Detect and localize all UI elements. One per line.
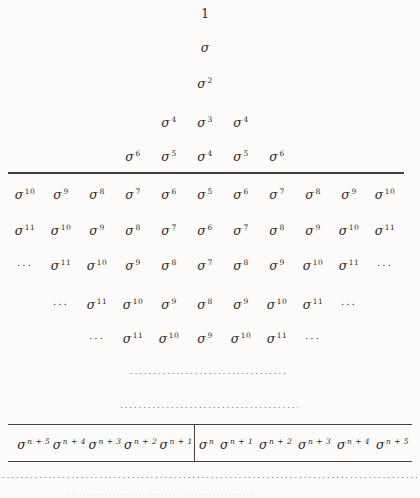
empty-cell: [7, 292, 43, 315]
exponent: 9: [243, 297, 248, 306]
exponent: 8: [99, 187, 104, 196]
sigma-glyph: σ: [197, 115, 206, 130]
sigma-term: σ9: [259, 253, 295, 276]
exponent: 10: [313, 258, 324, 267]
sigma-term: σ10: [295, 253, 331, 276]
exponent: 9: [351, 187, 356, 196]
sigma-term: σ10: [79, 253, 115, 276]
sigma-term: σ10: [115, 292, 151, 315]
exponent: 6: [135, 149, 140, 158]
exponent: n + 2: [134, 437, 157, 446]
ellipsis: ...: [331, 292, 367, 315]
sigma-glyph: σ: [376, 437, 385, 452]
empty-cell: [367, 144, 403, 167]
sigma-glyph: σ: [337, 437, 346, 452]
exponent: 10: [241, 331, 252, 340]
empty-cell: [151, 71, 187, 94]
sigma-glyph: σ: [197, 258, 206, 273]
exponent: 6: [207, 223, 212, 232]
dotted-continuation-line-2: ........................................…: [120, 400, 298, 412]
exponent: 11: [313, 297, 324, 306]
sigma-term: σn + 5: [376, 434, 409, 453]
empty-cell: [331, 3, 367, 24]
empty-cell: [79, 71, 115, 94]
sigma-glyph: σ: [197, 149, 206, 164]
sigma-term: σ10: [259, 292, 295, 315]
sigma-glyph: σ: [123, 331, 132, 346]
exponent: 11: [25, 223, 36, 232]
sigma-glyph: σ: [197, 297, 206, 312]
empty-cell: [151, 37, 187, 58]
sigma-glyph: σ: [231, 331, 240, 346]
sigma-term: σ10: [43, 218, 79, 241]
sigma-term: σn + 1: [220, 434, 253, 453]
exponent: 8: [207, 297, 212, 306]
triangle-row-1: 1: [7, 3, 403, 23]
sigma-term: σ7: [151, 218, 187, 241]
empty-cell: [79, 110, 115, 133]
sigma-term: σn + 3: [88, 434, 121, 453]
sigma-term: σ6: [223, 182, 259, 205]
sigma-glyph: σ: [305, 223, 314, 238]
sigma-term: σ9: [79, 218, 115, 241]
empty-cell: [7, 110, 43, 133]
sigma-glyph: σ: [51, 223, 60, 238]
empty-cell: [367, 3, 403, 24]
empty-cell: [223, 71, 259, 94]
triangle-row-7: σ11σ10σ9σ8σ7σ6σ7σ8σ9σ10σ11: [7, 218, 403, 238]
sigma-glyph: σ: [259, 437, 268, 452]
sigma-term: σn: [199, 434, 214, 453]
bottom-dotted-line: ........................................…: [2, 470, 417, 482]
sigma-term: σn + 4: [337, 434, 370, 453]
exponent: 11: [97, 297, 108, 306]
sigma-glyph: σ: [53, 187, 62, 202]
sigma-term: σ2: [187, 71, 223, 94]
sigma-glyph: σ: [197, 331, 206, 346]
sigma-term: σ8: [295, 182, 331, 205]
exponent: n + 3: [98, 437, 121, 446]
exponent: 4: [243, 115, 248, 124]
empty-cell: [43, 71, 79, 94]
sigma-glyph: σ: [161, 297, 170, 312]
sigma-term: σ11: [43, 253, 79, 276]
empty-cell: [367, 71, 403, 94]
sigma-term: σ: [187, 37, 223, 58]
sigma-term: σ8: [151, 253, 187, 276]
sigma-term: σn + 3: [298, 434, 331, 453]
exponent: 10: [349, 223, 360, 232]
exponent: 7: [279, 187, 284, 196]
sigma-term: σ7: [223, 218, 259, 241]
sigma-term: σ9: [43, 182, 79, 205]
sigma-term: σ11: [331, 253, 367, 276]
exponent: n + 1: [230, 437, 253, 446]
triangle-row-3: σ2: [7, 71, 403, 91]
sigma-glyph: σ: [303, 297, 312, 312]
sigma-glyph: σ: [53, 437, 62, 452]
sigma-glyph: σ: [161, 223, 170, 238]
sigma-glyph: σ: [161, 149, 170, 164]
empty-cell: [259, 71, 295, 94]
empty-cell: [331, 37, 367, 58]
sigma-term: σ5: [151, 144, 187, 167]
exponent: 7: [135, 187, 140, 196]
exponent: 11: [61, 258, 72, 267]
exponent: 5: [171, 149, 176, 158]
empty-cell: [43, 37, 79, 58]
sigma-term: σ11: [295, 292, 331, 315]
sigma-term: σ8: [259, 218, 295, 241]
empty-cell: [331, 110, 367, 133]
empty-cell: [43, 144, 79, 167]
sigma-term: σ11: [79, 292, 115, 315]
empty-cell: [7, 37, 43, 58]
sigma-glyph: σ: [161, 258, 170, 273]
empty-cell: [7, 144, 43, 167]
exponent: 10: [133, 297, 144, 306]
exponent: 8: [135, 223, 140, 232]
empty-cell: [223, 3, 259, 24]
empty-cell: [7, 71, 43, 94]
sigma-term: σ10: [7, 182, 43, 205]
sigma-glyph: σ: [375, 187, 384, 202]
sigma-term: σ11: [7, 218, 43, 241]
empty-cell: [79, 37, 115, 58]
sigma-glyph: σ: [303, 258, 312, 273]
